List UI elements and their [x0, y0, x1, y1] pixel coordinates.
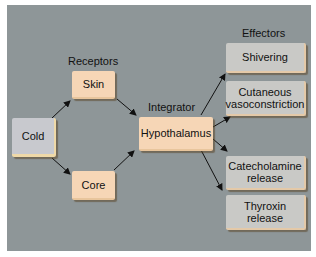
- catecholamine-line2: release: [228, 172, 301, 184]
- effector-node-shivering: Shivering: [226, 43, 306, 73]
- hypothalamus-label: Hypothalamus: [141, 127, 211, 139]
- receptor-node-core: Core: [72, 171, 115, 200]
- arrow-skin-to-hypothalamus: [117, 99, 136, 115]
- arrow-core-to-hypothalamus: [114, 151, 134, 170]
- core-label: Core: [82, 179, 106, 191]
- effector-node-catecholamine: Catecholamine release: [226, 156, 306, 190]
- thyroxin-line2: release: [244, 212, 286, 224]
- effector-node-thyroxin: Thyroxin release: [226, 195, 306, 230]
- effector-node-vasoconstriction: Cutaneous vasoconstriction: [226, 81, 306, 116]
- arrow-hypothalamus-to-thyroxin: [201, 150, 222, 190]
- arrow-hypothalamus-to-vasoconstriction: [213, 117, 230, 127]
- shivering-label: Shivering: [242, 51, 288, 63]
- effectors-heading: Effectors: [242, 27, 285, 39]
- integrator-heading: Integrator: [148, 101, 195, 113]
- arrow-hypothalamus-to-catecholamine: [213, 139, 227, 151]
- vasoconstriction-line2: vasoconstriction: [226, 98, 305, 110]
- integrator-node-hypothalamus: Hypothalamus: [139, 117, 213, 151]
- vasoconstriction-line1: Cutaneous: [226, 86, 305, 98]
- arrow-cold-to-skin: [52, 101, 70, 118]
- skin-label: Skin: [83, 78, 104, 90]
- stimulus-node-cold: Cold: [12, 118, 56, 157]
- receptor-node-skin: Skin: [72, 71, 115, 99]
- receptors-heading: Receptors: [68, 55, 118, 67]
- arrow-hypothalamus-to-shivering: [201, 74, 225, 115]
- stimulus-label: Cold: [22, 130, 45, 142]
- thyroxin-line1: Thyroxin: [244, 200, 286, 212]
- catecholamine-line1: Catecholamine: [228, 160, 301, 172]
- arrow-cold-to-core: [52, 158, 70, 174]
